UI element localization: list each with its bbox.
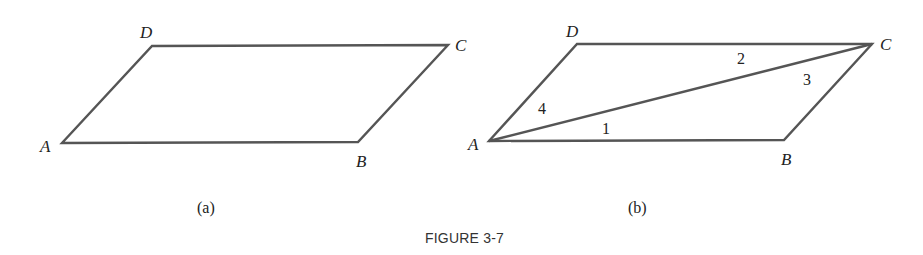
- vertex-label-c: C: [455, 36, 467, 55]
- figure-caption: FIGURE 3-7: [425, 230, 504, 246]
- vertex-label-d: D: [565, 22, 579, 41]
- panel-a-sublabel: (a): [197, 199, 215, 217]
- panel-a: A B C D (a): [39, 23, 467, 217]
- figure-3-7: A B C D (a) A B C D 1 2 3 4 (b) FIGURE 3…: [0, 0, 923, 255]
- vertex-label-d: D: [139, 23, 153, 42]
- panel-b-sublabel: (b): [628, 199, 647, 217]
- vertex-label-c: C: [880, 35, 892, 54]
- vertex-label-b: B: [356, 152, 367, 171]
- vertex-label-a: A: [467, 135, 479, 154]
- angle-label-4: 4: [538, 100, 546, 117]
- vertex-label-a: A: [39, 137, 51, 156]
- panel-b: A B C D 1 2 3 4 (b): [467, 22, 892, 217]
- angle-label-2: 2: [737, 50, 745, 67]
- angle-label-1: 1: [602, 120, 610, 137]
- vertex-label-b: B: [781, 150, 792, 169]
- angle-label-3: 3: [803, 71, 811, 88]
- parallelogram-abcd-a: [62, 45, 448, 143]
- diagonal-ac: [489, 44, 872, 141]
